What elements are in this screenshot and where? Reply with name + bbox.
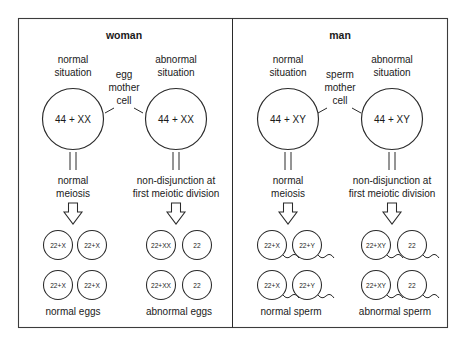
svg-text:cell: cell [116, 95, 131, 106]
meiosis-arrow [279, 203, 297, 224]
gamete-label: 22+X [50, 282, 66, 289]
mother-cell-connector-right [352, 108, 361, 113]
situation-label-line2: situation [269, 67, 306, 78]
svg-text:cell: cell [332, 95, 347, 106]
gamete-label: 22+XY [366, 282, 387, 289]
outcome-label: normal eggs [45, 306, 100, 317]
mother-cell-genotype: 44 + XX [158, 114, 194, 125]
gamete-label: 22+X [50, 242, 66, 249]
svg-text:mother: mother [324, 82, 356, 93]
svg-text:egg: egg [116, 69, 133, 80]
column-man-abnormal: abnormal situation 44 + XY non-disjuncti… [349, 54, 439, 317]
process-label-line1: non-disjunction at [353, 175, 432, 186]
gamete-label: 22+Y [299, 242, 315, 249]
situation-label-line1: abnormal [371, 54, 413, 65]
process-label-line2: first meiotic division [133, 188, 220, 199]
mother-cell-connector-right [134, 108, 143, 113]
gamete-label: 22+X [264, 282, 280, 289]
situation-label-line1: abnormal [155, 54, 197, 65]
nondisjunction-diagram: woman egg mother cell normal situation 4… [0, 0, 465, 344]
mother-cell-genotype: 44 + XX [55, 114, 91, 125]
process-label-line2: meiosis [56, 188, 90, 199]
situation-label-line1: normal [58, 54, 89, 65]
process-label-line2: first meiotic division [349, 188, 436, 199]
outcome-label: abnormal eggs [146, 306, 212, 317]
process-label-line2: meiosis [271, 188, 305, 199]
gamete-label: 22 [193, 242, 201, 249]
gamete-label: 22 [408, 242, 416, 249]
gamete-label: 22 [408, 282, 416, 289]
gamete-label: 22+XX [151, 242, 172, 249]
column-man-normal: normal situation 44 + XY normal meiosis … [258, 54, 335, 317]
gamete-label: 22+X [84, 242, 100, 249]
svg-text:sperm: sperm [326, 69, 354, 80]
mother-cell-genotype: 44 + XY [374, 114, 410, 125]
outcome-label: abnormal sperm [359, 306, 431, 317]
panel-title-woman: woman [105, 29, 142, 41]
sperm-tail [387, 254, 403, 258]
double-line-connector [285, 152, 291, 170]
process-label-line1: non-disjunction at [137, 175, 216, 186]
mother-cell-connector-left [105, 108, 114, 113]
meiosis-arrow [167, 203, 185, 224]
double-line-connector [389, 152, 395, 170]
column-woman-normal: normal situation 44 + XX normal meiosis … [43, 54, 107, 317]
process-label-line1: normal [273, 175, 304, 186]
gamete-label: 22 [193, 282, 201, 289]
column-woman-abnormal: abnormal situation 44 + XX non-disjuncti… [133, 54, 220, 317]
gamete-label: 22+Y [299, 282, 315, 289]
process-label-line1: normal [58, 175, 89, 186]
svg-text:mother: mother [108, 82, 140, 93]
meiosis-arrow [64, 203, 82, 224]
diagram-canvas: woman egg mother cell normal situation 4… [0, 0, 465, 344]
sperm-tail [318, 254, 334, 258]
situation-label-line2: situation [54, 67, 91, 78]
sperm-tail [423, 294, 439, 298]
situation-label-line1: normal [273, 54, 304, 65]
gamete-label: 22+X [264, 242, 280, 249]
gamete-label: 22+XX [151, 282, 172, 289]
meiosis-arrow [383, 203, 401, 224]
egg-mother-cell-label: egg mother cell [105, 69, 143, 113]
gamete-label: 22+X [84, 282, 100, 289]
gamete-label: 22+XY [366, 242, 387, 249]
situation-label-line2: situation [157, 67, 194, 78]
sperm-tail [387, 294, 403, 298]
mother-cell-connector-left [318, 108, 327, 113]
panel-title-man: man [329, 29, 351, 41]
double-line-connector [70, 152, 76, 170]
panel-woman: woman egg mother cell normal situation 4… [43, 29, 220, 317]
sperm-tail [318, 294, 334, 298]
situation-label-line2: situation [373, 67, 410, 78]
double-line-connector [173, 152, 179, 170]
sperm-tail [423, 254, 439, 258]
mother-cell-genotype: 44 + XY [270, 114, 306, 125]
panel-man: man sperm mother cell normal situation 4… [258, 29, 440, 317]
sperm-mother-cell-label: sperm mother cell [318, 69, 361, 113]
outcome-label: normal sperm [260, 306, 321, 317]
